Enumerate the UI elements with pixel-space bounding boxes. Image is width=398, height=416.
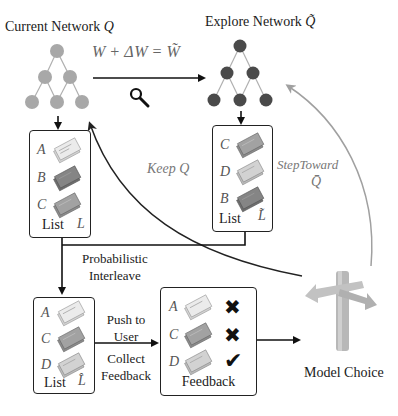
- list-symbol: L̂: [78, 373, 86, 389]
- feedback-item: D ✔: [161, 351, 256, 375]
- list-label: List: [44, 375, 66, 391]
- item-letter: C: [41, 331, 50, 347]
- document-stack-icon: [52, 139, 82, 163]
- list-item: B: [30, 167, 90, 191]
- model-choice-label: Model Choice: [304, 365, 384, 381]
- item-letter: D: [220, 164, 230, 180]
- list-item: C: [34, 328, 94, 352]
- item-letter: C: [37, 197, 46, 213]
- list-symbol: L̃: [258, 208, 266, 224]
- list-item: C: [30, 194, 90, 218]
- item-letter: C: [169, 327, 178, 343]
- document-stack-icon: [235, 134, 265, 158]
- collect-line2: Feedback: [97, 367, 155, 384]
- list-item: D: [213, 161, 272, 185]
- magnifier-icon: [131, 89, 148, 106]
- document-stack-icon: [183, 351, 213, 375]
- feedback-box: A ✖ C ✖ D ✔ Feedback: [160, 287, 257, 396]
- list-label: List: [42, 217, 64, 233]
- document-stack-icon: [52, 194, 82, 218]
- push-to-user-label: Push to User: [100, 311, 152, 345]
- item-letter: D: [41, 357, 51, 373]
- list-l-hat-box: A C D List L̂: [33, 297, 95, 394]
- item-letter: A: [169, 299, 178, 315]
- item-letter: A: [41, 305, 50, 321]
- cross-icon: ✖: [224, 295, 241, 319]
- document-stack-icon: [235, 161, 265, 185]
- item-letter: D: [169, 354, 179, 370]
- keep-q-label: Keep Q: [147, 161, 189, 177]
- list-symbol: L: [77, 216, 85, 232]
- feedback-item: A ✖: [161, 296, 256, 320]
- formula-plus: +: [110, 43, 120, 60]
- item-letter: C: [220, 137, 229, 153]
- step-toward-label: StepToward: [277, 157, 338, 173]
- keep-text: Keep: [147, 161, 176, 176]
- interleave-label: Probabilistic Interleave: [82, 250, 148, 284]
- keep-symbol: Q: [179, 161, 189, 176]
- feedback-label: Feedback: [161, 374, 256, 390]
- list-l-tilde-box: C D B List L̃: [212, 125, 273, 232]
- collect-line1: Collect: [97, 350, 155, 367]
- step-toward-arrow: [288, 86, 372, 266]
- formula-w: W: [92, 43, 106, 60]
- formula-equals: =: [153, 43, 163, 60]
- list-label: List: [219, 211, 241, 227]
- collect-feedback-label: Collect Feedback: [97, 350, 155, 384]
- current-network-symbol: Q: [104, 19, 114, 34]
- current-network-title: Current Network Q: [5, 19, 114, 35]
- push-line1: Push to: [100, 311, 152, 328]
- document-stack-icon: [183, 324, 213, 348]
- item-letter: B: [37, 170, 46, 186]
- push-line2: User: [100, 328, 152, 345]
- interleave-line2: Interleave: [82, 267, 148, 284]
- list-item: C: [213, 134, 272, 158]
- document-stack-icon: [56, 328, 86, 352]
- current-network-label: Current Network: [5, 19, 100, 34]
- update-formula: W + ΔW = W̃: [92, 43, 180, 61]
- item-letter: A: [37, 142, 46, 158]
- formula-delta-w: ΔW: [124, 43, 148, 60]
- document-stack-icon: [56, 302, 86, 326]
- check-icon: ✔: [224, 348, 242, 373]
- list-l-box: A B C List L: [29, 130, 91, 238]
- interleave-line1: Probabilistic: [82, 250, 148, 267]
- signpost-icon: [305, 271, 377, 351]
- list-item: A: [34, 302, 94, 326]
- list-item: A: [30, 139, 90, 163]
- explore-network-symbol: Q̃: [305, 14, 315, 29]
- explore-network-label: Explore Network: [205, 14, 302, 29]
- cross-icon: ✖: [224, 323, 241, 347]
- formula-w-tilde: W̃: [167, 43, 181, 60]
- explore-network-title: Explore Network Q̃: [205, 14, 315, 30]
- document-stack-icon: [52, 167, 82, 191]
- feedback-item: C ✖: [161, 324, 256, 348]
- document-stack-icon: [183, 296, 213, 320]
- step-toward-symbol: Q̄: [311, 174, 321, 190]
- current-network-tree-icon: [25, 44, 89, 109]
- explore-network-tree-icon: [208, 40, 273, 107]
- item-letter: B: [220, 191, 229, 207]
